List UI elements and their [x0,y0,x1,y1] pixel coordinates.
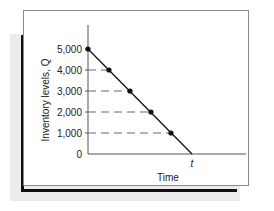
y-tick-label: 5,000 [57,44,82,55]
data-point [168,130,173,135]
y-tick-label: 3,000 [57,86,82,97]
data-point [85,46,90,51]
y-tick-label: 0 [76,149,82,160]
y-tick-label: 2,000 [57,107,82,118]
data-point [106,67,111,72]
data-point [127,88,132,93]
x-end-label-t: t [191,158,195,169]
dashed-reference-lines [88,70,171,133]
y-tick-label: 4,000 [57,65,82,76]
inventory-chart: 5,000 4,000 3,000 2,000 1,000 0 Inventor… [0,0,274,211]
x-axis-title: Time [157,172,179,183]
inventory-depletion-line [88,49,192,154]
y-axis-title: Inventory levels, Q [40,58,51,141]
data-point [148,109,153,114]
y-tick-label: 1,000 [57,128,82,139]
